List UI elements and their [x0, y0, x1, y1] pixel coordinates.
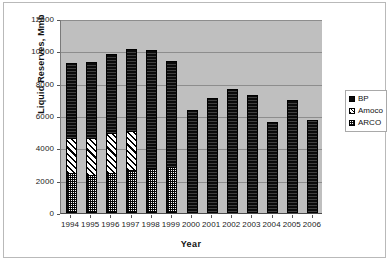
bar-segment-arco[interactable] [166, 167, 177, 213]
x-tick-mark [171, 215, 172, 218]
y-tick-label: 0 [6, 210, 54, 218]
y-tick-label: 4000 [6, 145, 54, 153]
bar-segment-bp[interactable] [106, 54, 117, 133]
bar-column[interactable] [267, 122, 278, 213]
bar-segment-bp[interactable] [166, 61, 177, 167]
bar-segment-bp[interactable] [126, 49, 137, 131]
legend-label: ARCO [358, 118, 381, 127]
bar-segment-bp[interactable] [247, 95, 258, 213]
y-tick-label: 6000 [6, 113, 54, 121]
bar-column[interactable] [66, 63, 77, 213]
bar-column[interactable] [207, 98, 218, 213]
bar-segment-bp[interactable] [287, 100, 298, 213]
bar-column[interactable] [166, 61, 177, 213]
bar-column[interactable] [126, 49, 137, 213]
legend-swatch-icon [349, 96, 355, 102]
plot-area [60, 20, 322, 214]
legend-item-amoco[interactable]: Amoco [349, 105, 384, 116]
bar-segment-amoco[interactable] [106, 133, 117, 173]
x-tick-mark [131, 215, 132, 218]
legend-item-bp[interactable]: BP [349, 93, 384, 104]
x-axis-title: Year [60, 239, 322, 249]
bar-column[interactable] [187, 110, 198, 213]
bar-column[interactable] [247, 95, 258, 213]
legend-label: BP [358, 94, 369, 103]
x-tick-mark [272, 215, 273, 218]
bar-segment-bp[interactable] [187, 110, 198, 213]
y-tick-label: 10000 [6, 48, 54, 56]
bar-segment-bp[interactable] [66, 63, 77, 137]
y-tick-label: 8000 [6, 81, 54, 89]
bar-column[interactable] [86, 62, 97, 213]
bar-segment-bp[interactable] [207, 98, 218, 213]
x-tick-mark [151, 215, 152, 218]
bar-segment-bp[interactable] [267, 122, 278, 213]
x-tick-mark [231, 215, 232, 218]
bar-column[interactable] [307, 120, 318, 213]
x-tick-mark [251, 215, 252, 218]
bar-segment-arco[interactable] [86, 175, 97, 213]
legend-label: Amoco [358, 106, 383, 115]
bar-segment-bp[interactable] [227, 89, 238, 213]
y-tick-mark [57, 214, 60, 215]
chart-screenshot: Liquid Reserves, Mmb 0200040006000800010… [0, 0, 389, 262]
bar-column[interactable] [146, 50, 157, 213]
bar-segment-bp[interactable] [146, 50, 157, 168]
x-tick-mark [90, 215, 91, 218]
bar-segment-arco[interactable] [146, 168, 157, 213]
bar-segment-bp[interactable] [86, 62, 97, 138]
bar-column[interactable] [106, 54, 117, 213]
bar-column[interactable] [287, 100, 298, 213]
legend-swatch-icon [349, 108, 355, 114]
bar-segment-arco[interactable] [66, 173, 77, 213]
chart-legend: BPAmocoARCO [345, 90, 387, 132]
bar-segment-arco[interactable] [106, 173, 117, 213]
x-tick-mark [211, 215, 212, 218]
x-tick-mark [110, 215, 111, 218]
chart-frame: Liquid Reserves, Mmb 0200040006000800010… [3, 2, 386, 258]
bar-segment-arco[interactable] [126, 170, 137, 213]
y-tick-label: 2000 [6, 178, 54, 186]
x-tick-label: 2006 [299, 220, 325, 229]
x-tick-mark [191, 215, 192, 218]
bar-segment-amoco[interactable] [86, 138, 97, 175]
gridline [61, 52, 322, 53]
bar-segment-amoco[interactable] [126, 131, 137, 171]
x-tick-mark [312, 215, 313, 218]
x-tick-mark [292, 215, 293, 218]
bar-segment-bp[interactable] [307, 120, 318, 213]
bar-column[interactable] [227, 89, 238, 213]
gridline [61, 85, 322, 86]
bar-segment-amoco[interactable] [66, 138, 77, 174]
y-tick-label: 12000 [6, 16, 54, 24]
gridline [61, 20, 322, 21]
x-tick-mark [70, 215, 71, 218]
legend-item-arco[interactable]: ARCO [349, 117, 384, 128]
legend-swatch-icon [349, 120, 355, 126]
